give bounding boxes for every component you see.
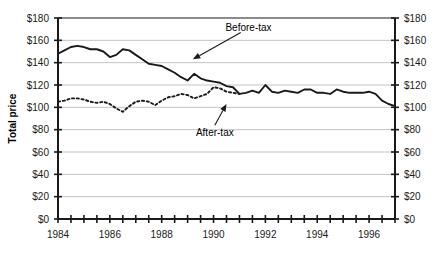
- series-line-before-tax: [58, 46, 395, 106]
- x-tick-label: 1990: [202, 229, 225, 240]
- y-tick-label-left: $100: [27, 102, 50, 113]
- x-tick-label: 1984: [47, 229, 70, 240]
- y-tick-label-left: $180: [27, 13, 50, 24]
- y-tick-label-left: $160: [27, 35, 50, 46]
- x-tick-label: 1986: [99, 229, 122, 240]
- series-line-after-tax: [58, 87, 239, 112]
- x-tick-label: 1992: [254, 229, 277, 240]
- y-axis-title: Total price: [7, 93, 18, 143]
- annotation-arrowhead-before-tax: [193, 53, 201, 59]
- annotation-arrowhead-after-tax: [220, 104, 226, 112]
- annotation-arrow-after-tax: [215, 111, 223, 126]
- y-tick-label-right: $20: [404, 191, 421, 202]
- y-tick-label-right: $0: [404, 214, 416, 225]
- y-tick-label-right: $160: [404, 35, 427, 46]
- y-tick-label-right: $80: [404, 124, 421, 135]
- y-tick-label-right: $40: [404, 169, 421, 180]
- annotation-label-before-tax: Before-tax: [225, 22, 271, 33]
- y-tick-label-right: $120: [404, 80, 427, 91]
- y-tick-label-left: $40: [32, 169, 49, 180]
- y-tick-label-left: $140: [27, 57, 50, 68]
- y-tick-label-left: $60: [32, 147, 49, 158]
- x-tick-label: 1996: [358, 229, 381, 240]
- annotation-arrow-before-tax: [199, 33, 240, 56]
- y-tick-label-left: $20: [32, 191, 49, 202]
- x-tick-label: 1994: [306, 229, 329, 240]
- y-tick-label-right: $140: [404, 57, 427, 68]
- annotation-label-after-tax: After-tax: [196, 127, 234, 138]
- y-tick-label-left: $120: [27, 80, 50, 91]
- y-tick-label-left: $80: [32, 124, 49, 135]
- x-tick-label: 1988: [151, 229, 174, 240]
- line-chart: $0$0$20$20$40$40$60$60$80$80$100$100$120…: [0, 0, 440, 257]
- y-tick-label-right: $180: [404, 13, 427, 24]
- y-tick-label-right: $60: [404, 147, 421, 158]
- figure-container: $0$0$20$20$40$40$60$60$80$80$100$100$120…: [0, 0, 440, 257]
- y-tick-label-left: $0: [38, 214, 50, 225]
- y-tick-label-right: $100: [404, 102, 427, 113]
